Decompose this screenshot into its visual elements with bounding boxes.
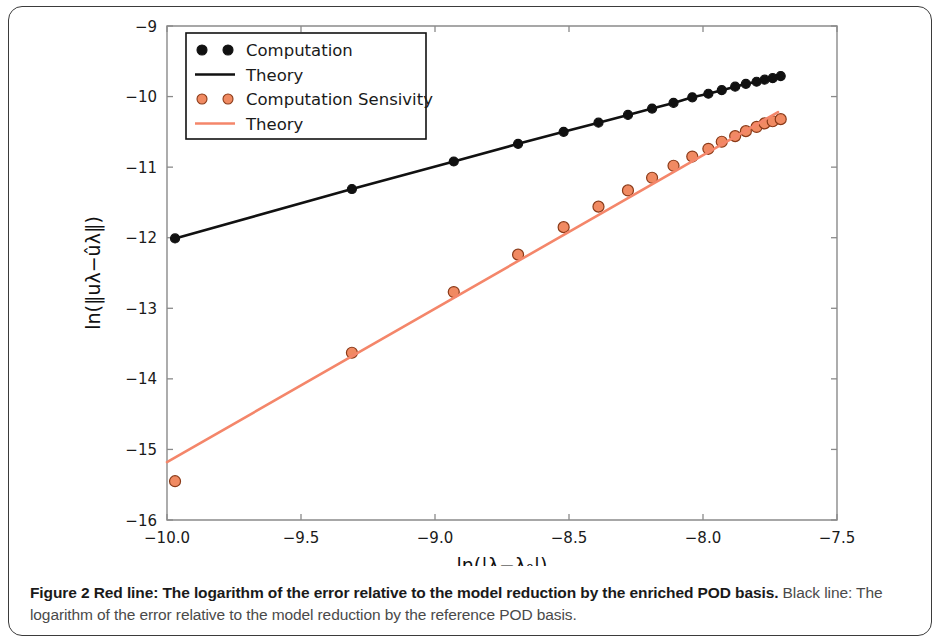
- x-axis-tick-label: −7.5: [819, 529, 855, 547]
- y-axis-title: ln(‖uλ−ûλ‖): [82, 216, 105, 330]
- y-axis-tick-label: −15: [125, 441, 157, 459]
- data-point: [775, 114, 786, 125]
- x-axis-title: ln(|λ−λ₀|): [457, 554, 548, 566]
- error-convergence-chart: ComputationTheoryComputation SensivityTh…: [0, 0, 944, 566]
- figure-page: ComputationTheoryComputation SensivityTh…: [0, 0, 944, 644]
- series-line-theory: [167, 112, 778, 462]
- legend-entry-label: Computation: [246, 41, 353, 60]
- legend-marker-icon: [197, 45, 207, 55]
- y-axis-tick-label: −13: [125, 300, 157, 318]
- data-point: [593, 201, 604, 212]
- y-axis-tick-label: −12: [125, 229, 157, 247]
- figure-caption: Figure 2 Red line: The logarithm of the …: [30, 582, 914, 626]
- y-axis-tick-label: −16: [125, 512, 157, 530]
- x-axis-tick-label: −9.5: [283, 529, 319, 547]
- x-axis-tick-label: −9.0: [417, 529, 453, 547]
- legend-marker-icon: [197, 94, 207, 104]
- caption-bold-part: Figure 2 Red line: The logarithm of the …: [30, 584, 778, 601]
- y-axis-tick-label: −14: [125, 370, 157, 388]
- legend-marker-icon: [223, 45, 233, 55]
- x-axis-tick-label: −8.5: [551, 529, 587, 547]
- x-axis-tick-label: −10.0: [144, 529, 190, 547]
- series-points-computation-sensivity: [170, 114, 787, 487]
- legend-entry-label: Computation Sensivity: [246, 90, 433, 109]
- legend-entry-label: Theory: [245, 66, 304, 85]
- plot-region: ComputationTheoryComputation SensivityTh…: [0, 0, 944, 566]
- legend-marker-icon: [223, 94, 233, 104]
- data-point: [622, 185, 633, 196]
- chart-legend: ComputationTheoryComputation SensivityTh…: [186, 33, 433, 139]
- y-axis-tick-label: −11: [125, 159, 157, 177]
- y-axis-tick-label: −10: [125, 88, 157, 106]
- data-point: [558, 222, 569, 233]
- data-point: [170, 476, 181, 487]
- y-axis-tick-label: −9: [135, 18, 157, 36]
- x-axis-tick-label: −8.0: [685, 529, 721, 547]
- legend-entry-label: Theory: [245, 115, 304, 134]
